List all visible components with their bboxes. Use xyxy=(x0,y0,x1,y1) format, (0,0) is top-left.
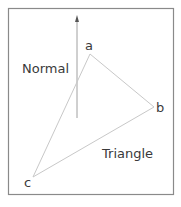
triangle-normal-diagram: a b c Normal Triangle xyxy=(0,0,181,207)
vertex-label-a: a xyxy=(85,38,93,53)
vertex-label-b: b xyxy=(156,100,164,115)
frame-border xyxy=(9,9,174,195)
normal-label: Normal xyxy=(22,61,69,76)
vertex-label-c: c xyxy=(24,175,31,190)
triangle-label: Triangle xyxy=(101,146,153,161)
